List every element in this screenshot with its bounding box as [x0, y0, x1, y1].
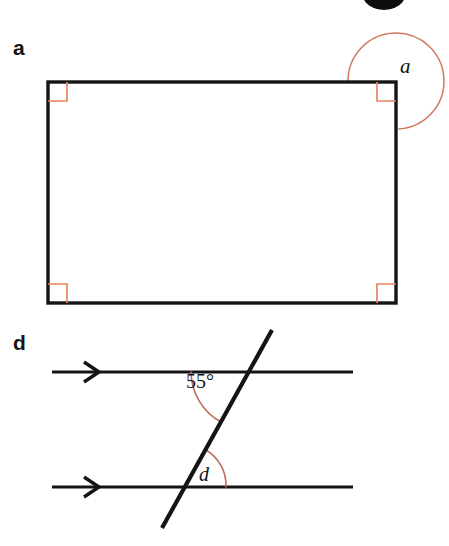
black-ellipse-marker — [363, 0, 405, 10]
angle-label-d: d — [199, 464, 209, 484]
angle-measure-55: 55° — [186, 371, 214, 391]
figure-page: a a d 55° d — [0, 0, 449, 546]
part-d-group — [52, 330, 353, 528]
part-label-d: d — [13, 332, 26, 353]
transversal-line — [162, 330, 272, 528]
angle-label-a: a — [400, 56, 411, 77]
part-label-a: a — [13, 37, 25, 58]
part-a-group — [48, 33, 444, 303]
rectangle-shape — [48, 82, 396, 303]
angle-arc-d — [206, 450, 226, 487]
geometry-figure-canvas — [0, 0, 449, 546]
